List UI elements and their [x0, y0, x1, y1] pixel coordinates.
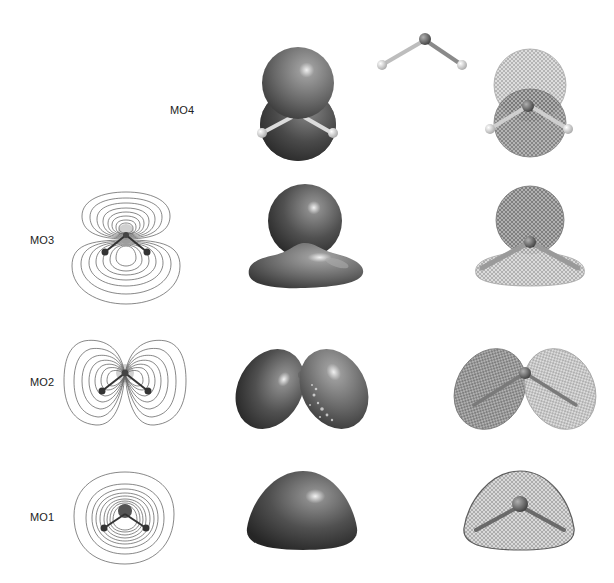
hydrogen-atom-icon — [457, 60, 467, 70]
mo1-mesh-isosurface — [462, 468, 582, 553]
oxygen-atom-icon — [419, 33, 431, 45]
mo4-mesh-isosurface — [470, 45, 590, 155]
hydrogen-atom-icon — [328, 128, 338, 138]
mo2-contour-plot — [62, 335, 192, 430]
mo3-solid-isosurface — [245, 183, 370, 293]
hydrogen-atom-icon — [563, 124, 573, 134]
hydrogen-atom-icon — [377, 60, 387, 70]
row-label-mo3: MO3 — [30, 234, 54, 246]
row-label-mo2: MO2 — [30, 376, 54, 388]
mo3-mesh-isosurface — [470, 180, 590, 295]
mo4-solid-isosurface — [240, 45, 350, 155]
water-molecule-ball-and-stick — [370, 25, 470, 85]
hydrogen-atom-icon — [485, 124, 495, 134]
oxygen-atom-icon — [519, 367, 531, 379]
mo1-contour-plot — [70, 470, 180, 565]
hydrogen-atom-icon — [257, 128, 267, 138]
mo2-mesh-isosurface — [450, 343, 600, 433]
oxygen-atom-icon — [522, 100, 534, 112]
mo2-solid-isosurface — [232, 345, 372, 430]
row-label-mo4: MO4 — [170, 104, 194, 116]
mo3-contour-plot — [68, 188, 188, 308]
row-label-mo1: MO1 — [30, 511, 54, 523]
oxygen-atom-icon — [524, 236, 536, 248]
mo1-solid-isosurface — [245, 468, 365, 553]
oxygen-atom-icon — [512, 496, 528, 512]
